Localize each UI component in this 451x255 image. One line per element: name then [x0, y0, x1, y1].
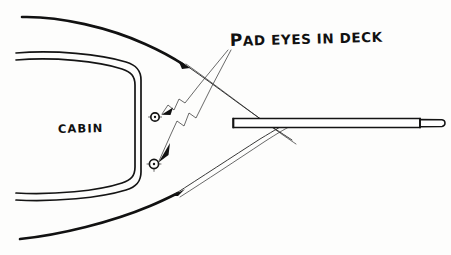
callout-label-cap: P — [230, 30, 244, 50]
cabin-label: CABIN — [58, 121, 104, 136]
callout-label: PAD EYES IN DECK — [230, 26, 383, 50]
sketch-canvas: PAD EYES IN DECK CABIN — [0, 0, 451, 255]
hull-lower-edge-thin — [175, 121, 291, 194]
pad-eye-lower-center-dot — [153, 163, 155, 165]
hull-lower-edge — [20, 121, 291, 239]
leader-line-upper-stroke — [162, 50, 228, 114]
hull-upper-edge-arrowhead — [178, 60, 190, 69]
leader-line-lower-arrowhead — [159, 143, 171, 163]
bowsprit-spar — [233, 119, 445, 128]
leader-line-upper — [162, 50, 229, 115]
hull-lower-inner-line — [180, 124, 295, 197]
spar-tip — [420, 120, 445, 127]
pad-eye-upper[interactable] — [149, 113, 162, 121]
callout-label-rest: AD EYES IN DECK — [243, 29, 383, 49]
pad-eye-upper-center-dot — [154, 116, 156, 118]
sketch-page: PAD EYES IN DECK CABIN — [0, 0, 451, 255]
leader-line-upper-arrowhead — [162, 108, 174, 116]
cabin-label-text: CABIN — [58, 121, 104, 136]
hull-lower-inner-stroke — [180, 124, 295, 197]
hull-upper-edge-thick — [22, 17, 184, 65]
callout-label-text: PAD EYES IN DECK — [230, 26, 383, 50]
spar-shaft — [233, 119, 420, 128]
